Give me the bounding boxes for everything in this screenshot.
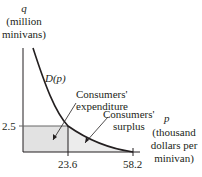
y-axis-label-1: (million (0, 15, 48, 27)
curve-label: D(p) (45, 72, 66, 84)
surplus-label-2: surplus (113, 120, 145, 132)
x-axis-label-1: (thousand (146, 126, 202, 138)
y-axis-symbol: q (9, 2, 39, 14)
x-axis-label-3: minivan) (146, 152, 202, 164)
x-tick-23-6: 23.6 (58, 158, 77, 170)
expenditure-region (23, 126, 68, 152)
expenditure-label-1: Consumers' (76, 88, 127, 100)
x-tick-58-2: 58.2 (123, 158, 142, 170)
y-axis-label-2: minivans) (0, 28, 48, 40)
surplus-label-1: Consumers' (103, 108, 154, 120)
x-axis-symbol: p (164, 112, 170, 124)
y-tick-2-5: 2.5 (2, 120, 16, 132)
x-axis-label-2: dollars per (146, 139, 202, 151)
